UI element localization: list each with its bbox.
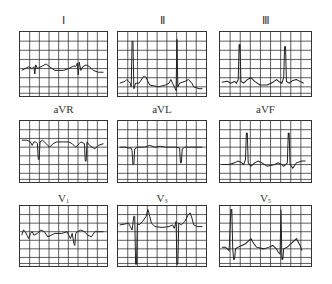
- lead-label: Ⅰ: [19, 14, 108, 26]
- lead-label-text: V: [58, 192, 66, 204]
- ecg-grid-strip: [19, 205, 108, 267]
- ecg-trace: [22, 140, 104, 161]
- ecg-grid-strip: [117, 205, 207, 267]
- ecg-grid-strip: [219, 205, 312, 267]
- lead-label-text: Ⅲ: [262, 14, 270, 26]
- lead-label-text: Ⅰ: [62, 14, 65, 26]
- lead-label: aVR: [19, 103, 108, 115]
- ecg-lead-v5: V5: [219, 192, 312, 267]
- ecg-lead-avl: aVL: [117, 103, 207, 183]
- ecg-grid-strip: [219, 120, 312, 183]
- lead-label-text: aVR: [53, 103, 73, 115]
- lead-label: Ⅲ: [219, 14, 312, 26]
- ecg-grid-strip: [117, 120, 207, 183]
- ecg-grid-strip: [219, 31, 312, 97]
- ecg-lead-avr: aVR: [19, 103, 108, 183]
- ecg-lead-iii: Ⅲ: [219, 14, 312, 97]
- ecg-trace: [222, 209, 302, 259]
- lead-label-text: Ⅱ: [160, 14, 165, 26]
- ecg-trace: [22, 230, 104, 245]
- ecg-trace: [120, 145, 203, 164]
- lead-label-text: aVL: [152, 103, 172, 115]
- ecg-trace: [120, 209, 203, 264]
- ecg-grid-strip: [19, 31, 108, 97]
- lead-label-subscript: 5: [268, 198, 271, 204]
- ecg-lead-avf: aVF: [219, 103, 312, 183]
- ecg-grid-strip: [117, 31, 207, 97]
- ecg-grid-strip: [19, 120, 108, 183]
- ecg-lead-ii: Ⅱ: [117, 14, 207, 97]
- ecg-trace: [222, 45, 304, 85]
- lead-label-subscript: 3: [164, 198, 167, 204]
- lead-label-subscript: 1: [66, 198, 69, 204]
- lead-label-text: aVF: [256, 103, 275, 115]
- lead-label-text: V: [260, 192, 268, 204]
- ecg-trace: [120, 39, 203, 90]
- lead-label: Ⅱ: [117, 14, 207, 26]
- ecg-lead-i: Ⅰ: [19, 14, 108, 97]
- ecg-lead-v3: V3: [117, 192, 207, 267]
- ecg-lead-v1: V1: [19, 192, 108, 267]
- lead-label: aVL: [117, 103, 207, 115]
- lead-label: aVF: [219, 103, 312, 115]
